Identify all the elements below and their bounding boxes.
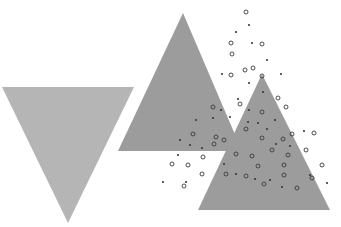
filled-dot xyxy=(266,59,268,61)
ring-dot xyxy=(251,66,255,70)
filled-dot xyxy=(247,121,249,123)
filled-dot xyxy=(185,181,187,183)
filled-dot xyxy=(281,186,283,188)
ring-dot xyxy=(182,184,186,188)
filled-dot xyxy=(229,116,231,118)
illustration-canvas xyxy=(0,0,341,227)
ring-dot xyxy=(243,68,247,72)
filled-dot xyxy=(309,174,311,176)
ring-dot xyxy=(284,105,288,109)
ring-dot xyxy=(170,162,174,166)
filled-dot xyxy=(201,147,203,149)
filled-dot xyxy=(275,143,277,145)
filled-dot xyxy=(235,173,237,175)
ring-dot xyxy=(229,73,233,77)
ring-dot xyxy=(201,155,205,159)
ring-dot xyxy=(200,172,204,176)
filled-dot xyxy=(251,42,253,44)
ring-dot xyxy=(260,42,264,46)
ring-dot xyxy=(186,163,190,167)
filled-dot xyxy=(248,82,250,84)
filled-dot xyxy=(223,163,225,165)
triangles-illustration xyxy=(0,0,341,227)
ring-dot xyxy=(320,163,324,167)
filled-dot xyxy=(177,154,179,156)
ring-dot xyxy=(276,96,280,100)
filled-dot xyxy=(280,73,282,75)
ring-dot xyxy=(229,41,233,45)
filled-dot xyxy=(221,73,223,75)
filled-dot xyxy=(235,31,237,33)
filled-dot xyxy=(179,139,181,141)
filled-dot xyxy=(220,109,222,111)
ring-dot xyxy=(244,10,248,14)
filled-dot xyxy=(257,122,259,124)
ring-dot xyxy=(238,102,242,106)
filled-dot xyxy=(266,128,268,130)
filled-dot xyxy=(212,117,214,119)
filled-dot xyxy=(289,145,291,147)
filled-dot xyxy=(248,24,250,26)
ring-dot xyxy=(230,52,234,56)
filled-dot xyxy=(326,182,328,184)
filled-dot xyxy=(162,181,164,183)
filled-dot xyxy=(269,179,271,181)
filled-dot xyxy=(195,119,197,121)
filled-dot xyxy=(248,109,250,111)
inverted-triangle-left-shape xyxy=(2,87,134,223)
filled-dot xyxy=(254,178,256,180)
filled-dot xyxy=(189,144,191,146)
filled-dot xyxy=(303,130,305,132)
ring-dot xyxy=(304,148,308,152)
filled-dot xyxy=(262,91,264,93)
triangle-middle-shape xyxy=(118,13,242,151)
ring-dot xyxy=(312,131,316,135)
filled-dot xyxy=(274,119,276,121)
filled-dot xyxy=(237,98,239,100)
